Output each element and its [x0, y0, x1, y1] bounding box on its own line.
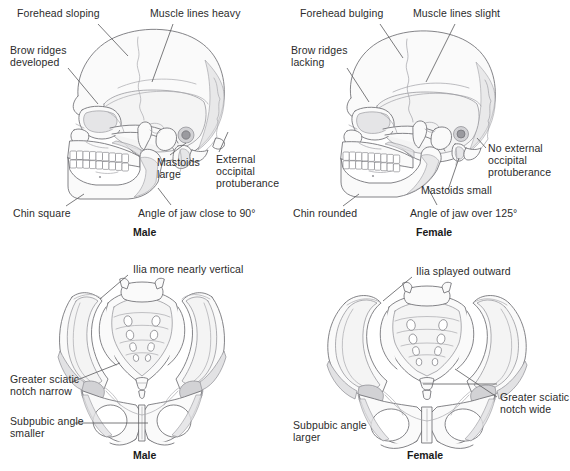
label-male-pelvis-subpubic-angle: Subpubic angle smaller: [10, 415, 84, 439]
label-female-pelvis-sciatic-notch: Greater sciatic notch wide: [500, 391, 569, 415]
label-male-mastoids: Mastoids large: [157, 156, 200, 180]
label-male-jaw-angle: Angle of jaw close to 90°: [138, 207, 256, 219]
label-female-muscle-lines: Muscle lines slight: [413, 7, 500, 19]
male-skull-drawing: [0, 0, 285, 240]
label-female-mastoids: Mastoids small: [421, 184, 492, 196]
label-female-forehead: Forehead bulging: [300, 7, 383, 19]
label-male-pelvis-sciatic-notch: Greater sciatic notch narrow: [10, 373, 79, 397]
female-skull-drawing: [285, 0, 570, 240]
label-male-external-occipital: External occipital protuberance: [216, 153, 279, 190]
label-male-forehead: Forehead sloping: [17, 7, 100, 19]
anatomy-figure: Forehead sloping Muscle lines heavy Brow…: [0, 0, 570, 471]
label-female-pelvis-subpubic-angle: Subpubic angle larger: [293, 419, 367, 443]
label-female-brow-ridges: Brow ridges lacking: [291, 44, 348, 68]
caption-female-skull: Female: [416, 226, 452, 238]
caption-male-pelvis: Male: [133, 449, 156, 461]
panel-male-skull: Forehead sloping Muscle lines heavy Brow…: [0, 0, 285, 240]
label-male-chin: Chin square: [13, 207, 71, 219]
panel-female-skull: Forehead bulging Muscle lines slight Bro…: [285, 0, 570, 240]
label-male-brow-ridges: Brow ridges developed: [10, 44, 67, 68]
panel-female-pelvis: Ilia splayed outward Greater sciatic not…: [285, 245, 570, 471]
label-female-chin: Chin rounded: [293, 207, 357, 219]
caption-male-skull: Male: [133, 226, 156, 238]
label-female-external-occipital: No external occipital protuberance: [488, 142, 551, 179]
label-male-muscle-lines: Muscle lines heavy: [150, 7, 241, 19]
label-female-pelvis-ilia: Ilia splayed outward: [416, 265, 511, 277]
caption-female-pelvis: Female: [407, 449, 443, 461]
panel-male-pelvis: Ilia more nearly vertical Greater sciati…: [0, 245, 285, 471]
label-female-jaw-angle: Angle of jaw over 125°: [410, 207, 517, 219]
label-male-pelvis-ilia: Ilia more nearly vertical: [133, 263, 243, 275]
